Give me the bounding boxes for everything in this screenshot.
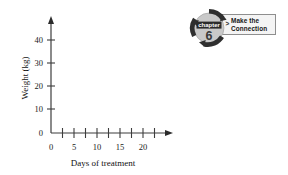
- x-tick-label-5: 5: [72, 142, 76, 152]
- make-the-connection-box[interactable]: > Make the Connection: [222, 14, 276, 35]
- make-the-connection-callout: > Make the Connection chapter 6: [189, 8, 288, 48]
- x-axis-arrow-icon: [165, 130, 173, 136]
- x-tick-label-0: 0: [49, 142, 53, 152]
- y-tick-label-0: 0: [39, 128, 43, 138]
- y-axis-arrow-icon: [48, 16, 54, 24]
- y-tick-label-40: 40: [35, 35, 44, 45]
- x-tick-label-15: 15: [116, 142, 125, 152]
- chapter-word: chapter: [198, 22, 220, 28]
- y-axis-title: Weight (kg): [20, 56, 30, 99]
- y-tick-label-10: 10: [35, 104, 44, 114]
- chapter-number: 6: [206, 29, 213, 43]
- chapter-badge-icon: chapter 6: [189, 8, 229, 48]
- chart-figure: 40 30 20 10 0 0 5 10 15 20 Weight (kg) D…: [0, 0, 180, 175]
- x-axis-title: Days of treatment: [71, 158, 136, 168]
- connection-line-2: Connection: [231, 25, 267, 32]
- connection-line-1: Make the: [231, 17, 259, 24]
- x-tick-label-10: 10: [93, 142, 102, 152]
- weight-vs-days-plot: 40 30 20 10 0 0 5 10 15 20 Weight (kg) D…: [0, 0, 180, 175]
- x-tick-label-20: 20: [139, 142, 148, 152]
- y-tick-label-20: 20: [35, 81, 44, 91]
- y-tick-label-30: 30: [35, 58, 44, 68]
- make-the-connection-label: Make the Connection: [231, 17, 267, 33]
